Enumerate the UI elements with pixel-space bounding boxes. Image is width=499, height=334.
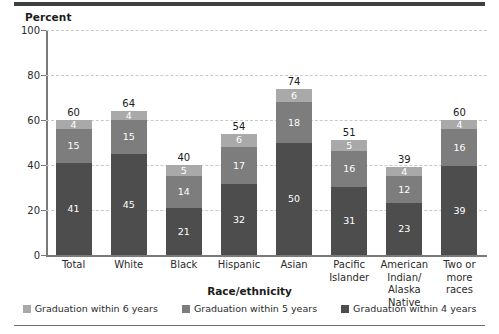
x-axis-category-label-line: Indian/: [377, 272, 432, 285]
legend-item[interactable]: Graduation within 4 years: [341, 303, 476, 314]
legend-label: Graduation within 5 years: [194, 303, 317, 314]
x-axis-category-label-line: Hispanic: [211, 259, 266, 272]
bar-segment-5-year[interactable]: 17: [221, 147, 257, 185]
bar-segment-4-year[interactable]: 41: [56, 163, 92, 255]
bar-total-label: 64: [99, 98, 159, 109]
bar-segment-5-year[interactable]: 18: [276, 102, 312, 143]
x-axis-category-label: Total: [46, 259, 101, 272]
y-axis-tick-label: 40: [6, 160, 40, 171]
x-axis-category-label-line: Two or: [432, 259, 487, 272]
legend-label: Graduation within 6 years: [35, 303, 158, 314]
bar-total-label: 74: [264, 76, 324, 87]
bar-segment-4-year[interactable]: 21: [166, 208, 202, 255]
bar-segment-4-year[interactable]: 32: [221, 184, 257, 255]
y-axis-tick-label: 0: [6, 250, 40, 261]
legend-swatch-icon: [23, 305, 31, 313]
x-axis-title: Race/ethnicity: [0, 285, 499, 297]
bar-total-label: 60: [429, 107, 489, 118]
bar-total-label: 51: [319, 127, 379, 138]
bar-stack[interactable]: 4515464: [111, 111, 147, 255]
y-axis-tick-label: 60: [6, 115, 40, 126]
chart-figure: Percent 020406080100 4115460451546421145…: [0, 0, 499, 334]
x-axis-line: [46, 255, 487, 257]
bar-stack[interactable]: 4115460: [56, 120, 92, 255]
bar-segment-5-year[interactable]: 16: [441, 129, 477, 166]
bottom-rule: [14, 325, 485, 326]
x-axis-category-label: Black: [156, 259, 211, 272]
y-axis-tick-labels: 020406080100: [0, 30, 40, 255]
y-axis-tick: [41, 255, 46, 256]
bar-segment-5-year[interactable]: 15: [56, 129, 92, 163]
x-axis-category-label: White: [101, 259, 156, 272]
bar-total-label: 40: [154, 152, 214, 163]
y-axis-tick-label: 100: [6, 25, 40, 36]
x-axis-category-label-line: Islander: [322, 272, 377, 285]
bar-segment-4-year[interactable]: 31: [331, 187, 367, 255]
bar-segment-6-year[interactable]: 6: [221, 134, 257, 147]
bar-segment-5-year[interactable]: 15: [111, 120, 147, 154]
y-axis-tick-label: 80: [6, 70, 40, 81]
x-axis-category-label-line: Pacific: [322, 259, 377, 272]
bars-layer: 4115460451546421145403217654501867431165…: [46, 30, 487, 255]
bar-segment-4-year[interactable]: 45: [111, 154, 147, 255]
bar-stack[interactable]: 3916460: [441, 120, 477, 255]
y-axis-title: Percent: [25, 11, 72, 23]
bar-total-label: 54: [209, 121, 269, 132]
bar-segment-5-year[interactable]: 16: [331, 151, 367, 186]
x-axis-category-label-line: American: [377, 259, 432, 272]
bar-total-label: 39: [374, 154, 434, 165]
chart-legend: Graduation within 6 yearsGraduation with…: [0, 303, 499, 314]
x-axis-category-label-line: Black: [156, 259, 211, 272]
bar-segment-6-year[interactable]: 5: [166, 165, 202, 176]
legend-swatch-icon: [341, 305, 349, 313]
x-axis-category-label: AmericanIndian/Alaska Native: [377, 259, 432, 309]
y-axis-tick-label: 20: [6, 205, 40, 216]
bar-stack[interactable]: 3116551: [331, 140, 367, 255]
top-rule: [14, 2, 485, 6]
x-axis-category-labels: TotalWhiteBlackHispanicAsianPacificIslan…: [46, 259, 487, 305]
bar-segment-6-year[interactable]: 5: [331, 140, 367, 151]
bar-segment-6-year[interactable]: 4: [441, 120, 477, 129]
legend-swatch-icon: [182, 305, 190, 313]
legend-label: Graduation within 4 years: [353, 303, 476, 314]
x-axis-category-label: PacificIslander: [322, 259, 377, 284]
bar-stack[interactable]: 2114540: [166, 165, 202, 255]
bar-stack[interactable]: 5018674: [276, 89, 312, 256]
bar-segment-4-year[interactable]: 50: [276, 143, 312, 256]
bar-segment-6-year[interactable]: 4: [386, 167, 422, 176]
x-axis-category-label: Hispanic: [211, 259, 266, 272]
bar-segment-6-year[interactable]: 4: [111, 111, 147, 120]
bar-segment-4-year[interactable]: 39: [441, 166, 477, 255]
x-axis-category-label-line: Total: [46, 259, 101, 272]
bar-stack[interactable]: 3217654: [221, 134, 257, 256]
x-axis-category-label: Asian: [267, 259, 322, 272]
bar-segment-4-year[interactable]: 23: [386, 203, 422, 255]
bar-segment-6-year[interactable]: 4: [56, 120, 92, 129]
bar-segment-5-year[interactable]: 14: [166, 176, 202, 208]
legend-item[interactable]: Graduation within 5 years: [182, 303, 317, 314]
x-axis-category-label-line: White: [101, 259, 156, 272]
bar-segment-5-year[interactable]: 12: [386, 176, 422, 203]
x-axis-category-label-line: Asian: [267, 259, 322, 272]
legend-item[interactable]: Graduation within 6 years: [23, 303, 158, 314]
bar-stack[interactable]: 2312439: [386, 167, 422, 255]
bar-segment-6-year[interactable]: 6: [276, 89, 312, 103]
bar-total-label: 60: [44, 107, 104, 118]
